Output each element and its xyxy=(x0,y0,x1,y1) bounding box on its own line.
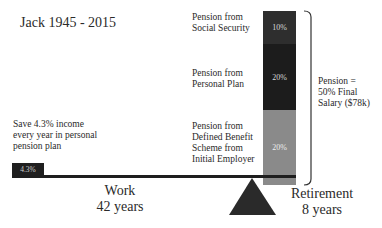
label-line: Defined Benefit xyxy=(192,132,255,143)
label-line: pension plan xyxy=(13,141,97,152)
label-line: Social Security xyxy=(192,23,250,34)
caption-retirement: Retirement 8 years xyxy=(282,186,362,218)
label-line: Initial Employer xyxy=(192,154,255,165)
label-line: Save 4.3% income xyxy=(13,119,97,130)
label-line: Pension from xyxy=(192,12,250,23)
label-total-pension: Pension = 50% Final Salary ($78k) xyxy=(318,76,370,109)
label-line: Pension from xyxy=(192,121,255,132)
label-savings-note: Save 4.3% income every year in personal … xyxy=(13,119,97,152)
label-line: every year in personal xyxy=(13,130,97,141)
label-social-security: Pension from Social Security xyxy=(192,12,250,34)
label-line: Salary ($78k) xyxy=(318,98,370,109)
bar-segment-defined-benefit: 20% xyxy=(263,110,296,185)
caption-work: Work 42 years xyxy=(90,183,150,215)
label-line: Pension = xyxy=(318,76,370,87)
label-line: 50% Final xyxy=(318,87,370,98)
label-line: Pension from xyxy=(192,68,244,79)
diagram-title: Jack 1945 - 2015 xyxy=(20,15,116,31)
bracket-icon xyxy=(303,9,317,189)
savings-bar: 4.3% xyxy=(12,163,44,175)
caption-label: Retirement xyxy=(282,186,362,202)
bar-segment-social-security: 10% xyxy=(263,11,296,44)
label-line: Scheme from xyxy=(192,143,255,154)
caption-duration: 42 years xyxy=(90,199,150,215)
fulcrum-triangle-icon xyxy=(228,177,278,217)
caption-label: Work xyxy=(90,183,150,199)
bar-segment-personal-plan: 20% xyxy=(263,44,296,110)
label-line: Personal Plan xyxy=(192,79,244,90)
label-personal-plan: Pension from Personal Plan xyxy=(192,68,244,90)
caption-duration: 8 years xyxy=(282,202,362,218)
label-defined-benefit: Pension from Defined Benefit Scheme from… xyxy=(192,121,255,165)
